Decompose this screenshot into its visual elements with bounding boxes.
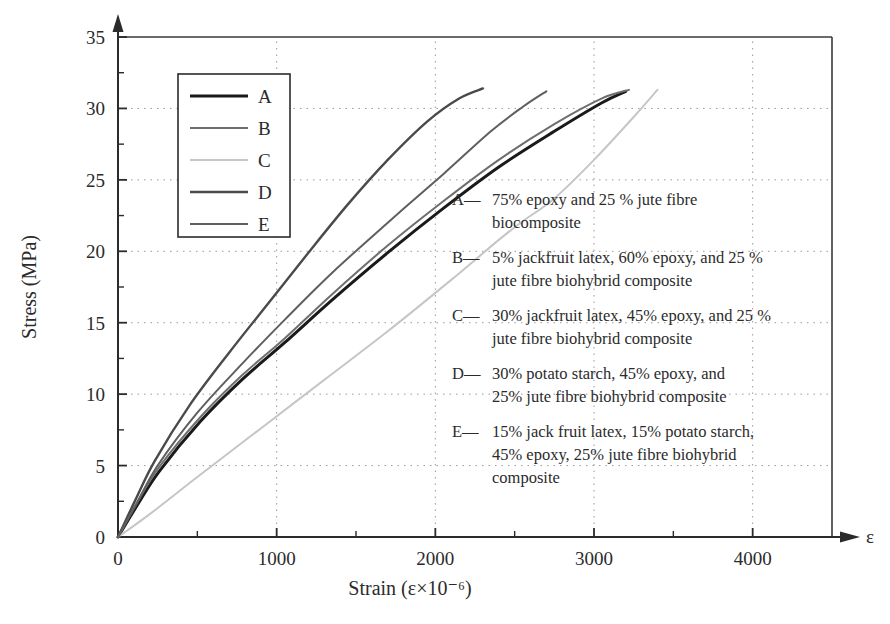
y-tick-label: 10 xyxy=(86,384,105,405)
legend-label-D: D xyxy=(258,182,272,203)
annotation-line-D-1: 25% jute fibre biohybrid composite xyxy=(492,387,727,406)
figure-container: 0510152025303501000200030004000 ABCDE A—… xyxy=(0,0,890,624)
x-tick-label: 2000 xyxy=(416,548,454,569)
y-axis-title: Stress (MPa) xyxy=(18,235,41,339)
y-tick-label: 15 xyxy=(86,313,105,334)
annotation-line-D-0: 30% potato starch, 45% epoxy, and xyxy=(492,364,726,383)
x-axis-symbol-label: ε xyxy=(866,526,874,547)
annotation-line-B-0: 5% jackfruit latex, 60% epoxy, and 25 % xyxy=(492,248,763,267)
x-axis-arrowhead xyxy=(840,532,860,543)
annotation-key-D: D— xyxy=(452,364,481,383)
annotation-line-E-1: 45% epoxy, 25% jute fibre biohybrid xyxy=(492,445,737,464)
y-tick-label: 35 xyxy=(86,27,105,48)
y-tick-label: 0 xyxy=(96,527,106,548)
x-axis-title: Strain (ε×10⁻⁶) xyxy=(348,577,471,600)
axis-titles: Strain (ε×10⁻⁶)Stress (MPa)ε xyxy=(18,235,874,600)
annotation-key-B: B— xyxy=(452,248,480,267)
legend-label-B: B xyxy=(258,118,271,139)
x-tick-label: 4000 xyxy=(734,548,772,569)
annotation-line-A-1: biocomposite xyxy=(492,213,581,232)
y-axis-arrowhead xyxy=(113,14,124,32)
annotation-list: A—75% epoxy and 25 % jute fibrebiocompos… xyxy=(452,190,771,487)
annotation-line-A-0: 75% epoxy and 25 % jute fibre xyxy=(492,190,697,209)
y-tick-label: 30 xyxy=(86,98,105,119)
legend-label-E: E xyxy=(258,214,270,235)
annotation-key-E: E— xyxy=(452,422,479,441)
x-tick-label: 3000 xyxy=(575,548,613,569)
annotation-key-C: C— xyxy=(452,306,480,325)
annotation-line-C-0: 30% jackfruit latex, 45% epoxy, and 25 % xyxy=(492,306,771,325)
y-tick-label: 5 xyxy=(96,456,106,477)
annotation-line-E-0: 15% jack fruit latex, 15% potato starch, xyxy=(492,422,754,441)
legend-frame xyxy=(178,74,290,237)
series-curve-D xyxy=(118,88,483,537)
annotation-line-B-1: jute fibre biohybrid composite xyxy=(491,271,692,290)
y-tick-label: 25 xyxy=(86,170,105,191)
x-tick-label: 0 xyxy=(113,548,123,569)
legend-box: ABCDE xyxy=(178,74,290,237)
stress-strain-chart: 0510152025303501000200030004000 ABCDE A—… xyxy=(0,0,890,624)
legend-label-A: A xyxy=(258,86,272,107)
x-tick-label: 1000 xyxy=(258,548,296,569)
legend-label-C: C xyxy=(258,150,271,171)
y-tick-label: 20 xyxy=(86,241,105,262)
annotation-key-A: A— xyxy=(452,190,481,209)
annotation-line-C-1: jute fibre biohybrid composite xyxy=(491,329,692,348)
annotation-line-E-2: composite xyxy=(492,468,560,487)
